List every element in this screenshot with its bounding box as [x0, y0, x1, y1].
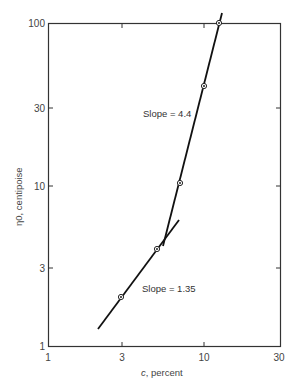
y-axis-title: η0, centipoise [13, 167, 24, 226]
y-tick-label-10: 10 [34, 181, 46, 192]
annotation-slope-4-4: Slope = 4.4 [143, 108, 191, 119]
y-ticks [49, 108, 281, 268]
data-point [177, 180, 182, 185]
plot-frame [49, 24, 281, 347]
y-tick-labels: 100 30 10 3 1 [28, 18, 45, 352]
x-tick-label-3: 3 [119, 352, 125, 363]
data-point [118, 294, 123, 299]
fit-line-slope-1-35 [98, 220, 179, 329]
x-tick-label-30: 30 [273, 352, 285, 363]
x-tick-label-10: 10 [198, 352, 210, 363]
x-axis-title: c, percent [141, 367, 183, 378]
data-point [201, 83, 206, 88]
fit-line-slope-4-4 [163, 13, 222, 246]
y-tick-label-100: 100 [28, 18, 45, 29]
data-point [154, 246, 159, 251]
data-points [118, 20, 221, 299]
data-point [216, 20, 221, 25]
x-tick-labels: 1 3 10 30 [45, 352, 285, 363]
x-tick-label-1: 1 [45, 352, 51, 363]
y-tick-label-1: 1 [39, 341, 45, 352]
log-log-chart: 100 30 10 3 1 1 3 10 30 c, percent η0, c… [0, 0, 299, 387]
y-tick-label-3: 3 [39, 263, 45, 274]
annotation-slope-1-35: Slope = 1.35 [142, 283, 196, 294]
x-ticks [122, 24, 204, 347]
y-tick-label-30: 30 [34, 103, 46, 114]
